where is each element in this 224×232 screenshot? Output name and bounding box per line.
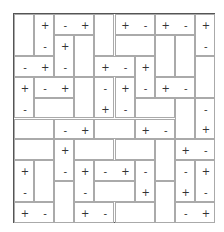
plus-sign: + xyxy=(55,36,75,57)
domino[interactable]: -+ xyxy=(14,56,54,77)
minus-sign: - xyxy=(196,99,216,120)
domino[interactable]: -+ xyxy=(34,77,74,98)
empty-cell xyxy=(156,99,176,120)
minus-sign: - xyxy=(95,78,115,99)
empty-cell xyxy=(176,119,196,140)
domino[interactable]: +- xyxy=(115,14,155,35)
minus-sign: - xyxy=(136,161,156,182)
domino[interactable] xyxy=(34,160,54,202)
domino[interactable]: +- xyxy=(94,56,134,77)
plus-sign: + xyxy=(196,203,216,224)
empty-cell xyxy=(75,140,95,161)
empty-cell xyxy=(136,36,156,57)
domino[interactable]: +- xyxy=(74,202,114,223)
minus-sign: - xyxy=(136,78,156,99)
plus-sign: + xyxy=(75,203,95,224)
empty-cell xyxy=(136,99,156,120)
minus-sign: - xyxy=(15,57,35,78)
plus-sign: + xyxy=(95,57,115,78)
domino[interactable] xyxy=(94,119,134,140)
empty-cell xyxy=(136,203,156,224)
domino[interactable]: -+ xyxy=(175,202,215,223)
empty-cell xyxy=(75,78,95,99)
domino[interactable]: -+ xyxy=(54,14,94,35)
domino[interactable]: +- xyxy=(175,139,215,160)
empty-cell xyxy=(176,57,196,78)
empty-cell xyxy=(35,140,55,161)
plus-sign: + xyxy=(156,15,176,36)
domino[interactable]: +- xyxy=(34,14,54,56)
domino[interactable] xyxy=(34,98,74,119)
empty-cell xyxy=(116,203,136,224)
domino[interactable] xyxy=(175,98,195,140)
domino[interactable]: +- xyxy=(115,77,135,119)
domino[interactable]: +- xyxy=(155,14,195,35)
plus-sign: + xyxy=(136,57,156,78)
domino[interactable] xyxy=(74,139,114,160)
domino[interactable] xyxy=(94,14,114,56)
empty-cell xyxy=(116,140,136,161)
domino[interactable] xyxy=(14,119,54,140)
domino[interactable] xyxy=(74,77,94,119)
empty-cell xyxy=(196,57,216,78)
domino[interactable] xyxy=(115,35,155,56)
domino[interactable] xyxy=(155,139,175,181)
domino[interactable]: +- xyxy=(54,35,74,77)
domino[interactable] xyxy=(94,181,134,202)
domino[interactable]: +- xyxy=(14,202,54,223)
domino[interactable] xyxy=(14,14,34,56)
empty-cell xyxy=(156,140,176,161)
empty-cell xyxy=(156,161,176,182)
plus-sign: + xyxy=(116,15,136,36)
domino[interactable]: +- xyxy=(74,160,94,202)
domino[interactable] xyxy=(135,98,175,119)
empty-cell xyxy=(75,57,95,78)
domino[interactable] xyxy=(175,35,195,77)
domino[interactable] xyxy=(195,56,215,98)
domino[interactable]: +- xyxy=(14,77,34,119)
domino[interactable]: -+ xyxy=(54,119,94,140)
minus-sign: - xyxy=(15,182,35,203)
plus-sign: + xyxy=(75,120,95,141)
domino[interactable]: +- xyxy=(54,139,74,181)
plus-sign: + xyxy=(35,57,55,78)
minus-sign: - xyxy=(35,36,55,57)
empty-cell xyxy=(95,182,115,203)
domino[interactable]: -+ xyxy=(175,160,195,202)
plus-sign: + xyxy=(136,182,156,203)
domino[interactable]: +- xyxy=(195,14,215,56)
empty-cell xyxy=(116,36,136,57)
domino[interactable] xyxy=(54,181,74,223)
plus-sign: + xyxy=(156,78,176,99)
domino[interactable]: -+ xyxy=(195,98,215,140)
plus-sign: + xyxy=(15,78,35,99)
plus-sign: + xyxy=(35,15,55,36)
domino[interactable]: -+ xyxy=(94,160,134,181)
domino[interactable]: +- xyxy=(155,77,195,98)
minus-sign: - xyxy=(35,203,55,224)
empty-cell xyxy=(95,140,115,161)
domino[interactable] xyxy=(155,181,175,223)
minus-sign: - xyxy=(156,120,176,141)
minus-sign: - xyxy=(176,15,196,36)
empty-cell xyxy=(35,182,55,203)
domino[interactable]: +- xyxy=(135,56,155,98)
domino[interactable] xyxy=(115,139,155,160)
empty-cell xyxy=(75,36,95,57)
empty-cell xyxy=(55,99,75,120)
domino[interactable]: +- xyxy=(195,160,215,202)
minus-sign: - xyxy=(75,182,95,203)
empty-cell xyxy=(156,203,176,224)
domino[interactable] xyxy=(115,202,155,223)
empty-cell xyxy=(15,120,35,141)
domino[interactable]: -+ xyxy=(135,160,155,202)
puzzle-board: +--++-+-+-+--++-+-+--+-++-+--+-++-+-+-+-… xyxy=(13,13,215,223)
empty-cell xyxy=(156,182,176,203)
domino[interactable]: -+ xyxy=(94,77,114,119)
domino[interactable] xyxy=(74,35,94,77)
domino[interactable] xyxy=(14,139,54,160)
domino[interactable]: +- xyxy=(14,160,34,202)
domino[interactable]: +- xyxy=(135,119,175,140)
domino[interactable] xyxy=(155,35,175,77)
minus-sign: - xyxy=(196,36,216,57)
